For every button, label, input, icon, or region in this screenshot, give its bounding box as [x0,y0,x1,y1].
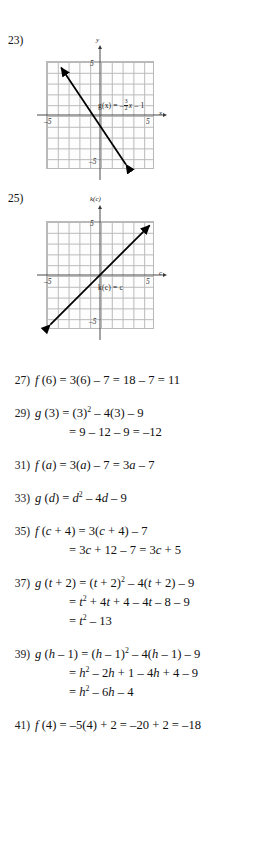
graph-23-y-axis-label: y [96,36,99,44]
problem-number: 39) [0,647,35,661]
solution-continuation-line: 29)= 9 – 12 – 9 = –12 [0,425,263,444]
solution-29: 29)g (3) = (3)2 – 4(3) – 929)= 9 – 12 – … [0,406,263,444]
graph-23-eq-variable: x [129,101,133,110]
solution-continuation-line: 35)= 3c + 12 – 7 = 3c + 5 [0,543,263,562]
expression: = 9 – 12 – 9 = –12 [35,425,162,441]
graph-23-eq-tail: – 1 [134,101,144,110]
problem-number: 29) [0,406,35,420]
expression: g (t + 2) = (t + 2)2 – 4(t + 2) – 9 [35,576,194,592]
expression: = 3c + 12 – 7 = 3c + 5 [35,543,181,559]
solutions-list: 27)f (6) = 3(6) – 7 = 18 – 7 = 1129)g (3… [0,373,263,751]
graph-25-x-axis-label: c [159,269,162,277]
solution-31: 31)f (a) = 3(a) – 7 = 3a – 7 [0,458,263,477]
figure-25-number: 25) [8,192,23,204]
solution-continuation-line: 39)= h2 – 2h + 1 – 4h + 4 – 9 [0,666,263,685]
problem-number: 41) [0,718,35,732]
solution-first-line: 33)g (d) = d2 – 4d – 9 [0,491,263,510]
solution-33: 33)g (d) = d2 – 4d – 9 [0,491,263,510]
graph-23-x-axis-label: x [159,109,162,117]
solution-first-line: 27)f (6) = 3(6) – 7 = 18 – 7 = 11 [0,373,263,392]
graph-23-equation-label: g(x) = –32x – 1 [98,99,144,111]
solution-27: 27)f (6) = 3(6) – 7 = 18 – 7 = 11 [0,373,263,392]
expression: f (4) = –5(4) + 2 = –20 + 2 = –18 [35,718,201,734]
graph-23-eq-lhs: g(x) = [98,101,118,110]
problem-number: 33) [0,491,35,505]
solution-first-line: 29)g (3) = (3)2 – 4(3) – 9 [0,406,263,425]
expression: = h2 – 6h – 4 [35,685,134,701]
problem-number: 31) [0,458,35,472]
solution-39: 39)g (h – 1) = (h – 1)2 – 4(h – 1) – 939… [0,647,263,704]
solution-continuation-line: 37)= t2 – 13 [0,614,263,633]
solution-35: 35)f (c + 4) = 3(c + 4) – 735)= 3c + 12 … [0,524,263,562]
expression: f (c + 4) = 3(c + 4) – 7 [35,524,148,540]
graph-23-eq-frac-denominator: 2 [124,106,128,112]
graph-23-eq-sign: – [120,101,124,110]
expression: g (3) = (3)2 – 4(3) – 9 [35,406,144,422]
graph-25-y-axis-label: k(c) [90,195,101,203]
graph-25: c k(c) –5 5 5 –5 k(c) = c [46,221,154,329]
problem-number: 35) [0,524,35,538]
solution-first-line: 35)f (c + 4) = 3(c + 4) – 7 [0,524,263,543]
figure-25: 25) c k(c) –5 5 5 –5 [0,192,263,347]
expression: = t2 – 13 [35,614,112,630]
figure-23: 23) x y –5 5 5 –5 [0,34,263,184]
solution-first-line: 31)f (a) = 3(a) – 7 = 3a – 7 [0,458,263,477]
expression: f (a) = 3(a) – 7 = 3a – 7 [35,458,155,474]
solution-continuation-line: 39)= h2 – 6h – 4 [0,685,263,704]
expression: = h2 – 2h + 1 – 4h + 4 – 9 [35,666,198,682]
figure-23-number: 23) [8,34,23,46]
graph-25-line [46,221,154,329]
graph-25-y-arrow-icon [98,205,102,209]
solution-continuation-line: 37)= t2 + 4t + 4 – 4t – 8 – 9 [0,595,263,614]
graph-23-x-arrow-icon [163,113,167,117]
graph-23-eq-fraction: 32 [124,99,128,111]
graph-23-line [46,61,154,169]
expression: = t2 + 4t + 4 – 4t – 8 – 9 [35,595,190,611]
expression: g (d) = d2 – 4d – 9 [35,491,127,507]
graph-25-x-arrow-icon [163,273,167,277]
graph-25-equation-label: k(c) = c [98,283,123,292]
expression: f (6) = 3(6) – 7 = 18 – 7 = 11 [35,373,180,389]
graph-23-y-arrow-icon [98,45,102,49]
solution-41: 41)f (4) = –5(4) + 2 = –20 + 2 = –18 [0,718,263,737]
answer-key-page: 23) x y –5 5 5 –5 [0,0,263,845]
problem-number: 27) [0,373,35,387]
solution-first-line: 39)g (h – 1) = (h – 1)2 – 4(h – 1) – 9 [0,647,263,666]
expression: g (h – 1) = (h – 1)2 – 4(h – 1) – 9 [35,647,200,663]
graph-23: x y –5 5 5 –5 g(x) = –32x [46,61,154,169]
problem-number: 37) [0,576,35,590]
solution-37: 37)g (t + 2) = (t + 2)2 – 4(t + 2) – 937… [0,576,263,633]
solution-first-line: 37)g (t + 2) = (t + 2)2 – 4(t + 2) – 9 [0,576,263,595]
solution-first-line: 41)f (4) = –5(4) + 2 = –20 + 2 = –18 [0,718,263,737]
